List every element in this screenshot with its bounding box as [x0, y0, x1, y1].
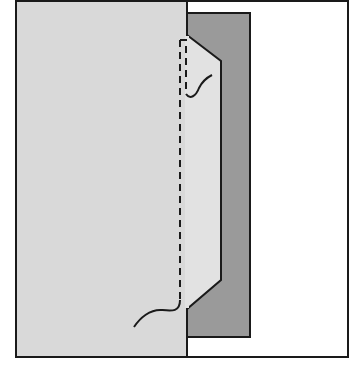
sewing-diagram	[0, 0, 350, 369]
garment-panel	[16, 1, 187, 357]
light-facing-extension	[187, 35, 221, 309]
